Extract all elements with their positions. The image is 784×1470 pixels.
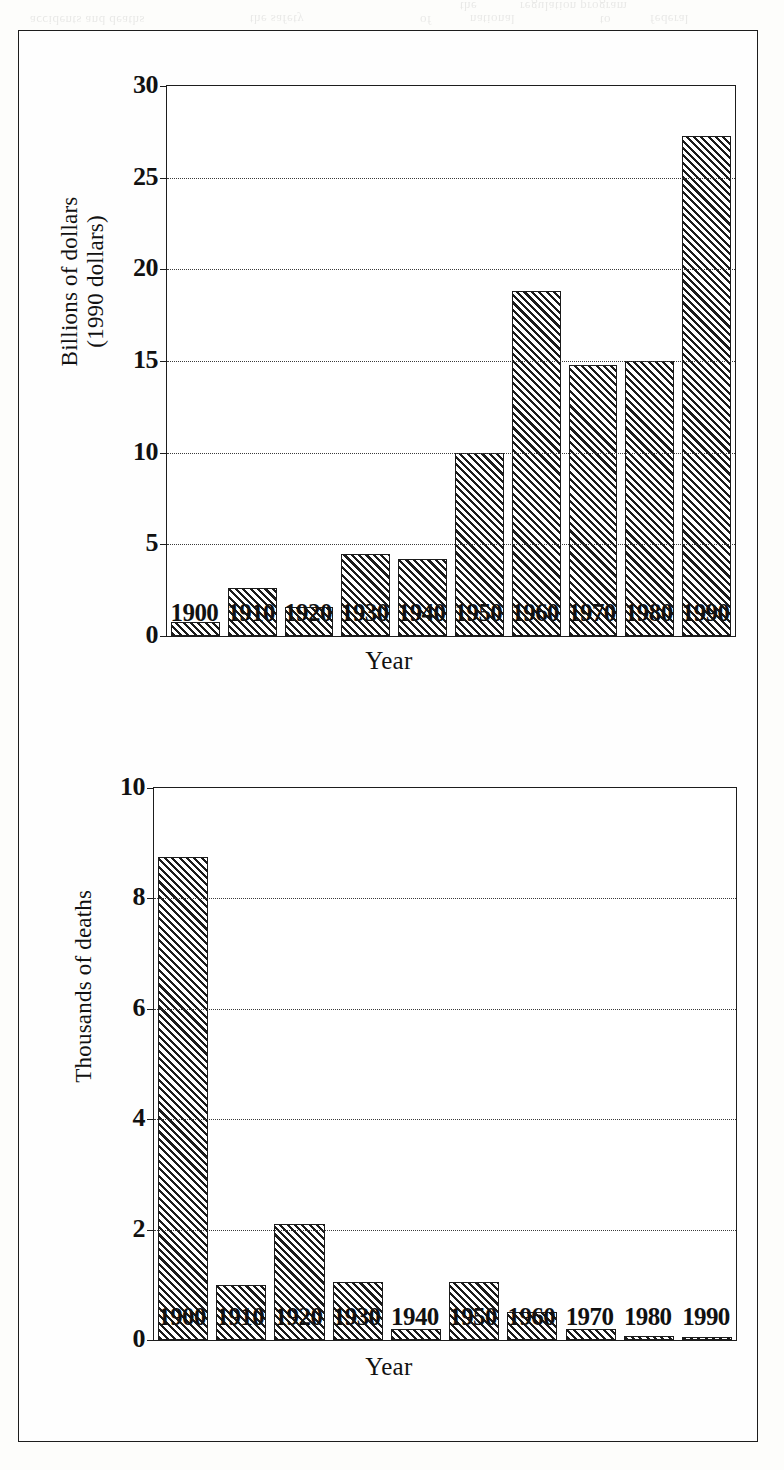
x-tick-label: 1990 (677, 599, 734, 627)
chart1-x-axis-label: Year (19, 647, 759, 675)
chart2-y-axis-label: Thousands of deaths (71, 821, 97, 1151)
y-tick-mark (160, 636, 167, 637)
y-tick-mark (147, 1230, 154, 1231)
x-tick-label: 1960 (507, 599, 564, 627)
x-tick-label: 1930 (328, 1303, 386, 1331)
gridline (154, 1119, 736, 1120)
gridline (154, 1009, 736, 1010)
bar-slot (503, 788, 561, 1340)
x-tick-label: 1920 (269, 1303, 327, 1331)
x-tick-label: 1950 (444, 1303, 502, 1331)
y-tick-mark (160, 361, 167, 362)
bar-slot (678, 788, 736, 1340)
y-tick-mark (160, 453, 167, 454)
bar-slot (620, 788, 678, 1340)
y-tick-label: 5 (146, 529, 159, 559)
y-tick-label: 20 (133, 254, 158, 284)
y-tick-label: 6 (133, 993, 146, 1023)
y-tick-mark (160, 269, 167, 270)
x-tick-label: 1920 (280, 599, 337, 627)
x-tick-label: 1960 (502, 1303, 560, 1331)
y-tick-label: 8 (133, 883, 146, 913)
y-tick-mark (147, 788, 154, 789)
x-tick-label: 1980 (620, 599, 677, 627)
y-tick-label: 30 (133, 70, 158, 100)
bar-slot (561, 788, 619, 1340)
x-tick-label: 1980 (619, 1303, 677, 1331)
bar-1990 (682, 136, 731, 637)
chart1-y-axis-label-line2: (1990 dollars) (83, 215, 108, 347)
x-tick-label: 1900 (166, 599, 223, 627)
gridline (154, 898, 736, 899)
x-tick-label: 1940 (386, 1303, 444, 1331)
chart-billions-of-dollars: Billions of dollars(1990 dollars) 051015… (19, 43, 759, 743)
gridline (167, 453, 735, 454)
bar-1980 (624, 1336, 674, 1340)
gridline (167, 178, 735, 179)
gridline (167, 544, 735, 545)
bar-slot (329, 788, 387, 1340)
y-tick-mark (147, 1119, 154, 1120)
x-tick-label: 1970 (560, 1303, 618, 1331)
y-tick-mark (147, 1009, 154, 1010)
x-tick-label: 1950 (450, 599, 507, 627)
y-tick-label: 4 (133, 1104, 146, 1134)
scanner-bleed-through: accidents and deaths the safety of natio… (0, 0, 784, 30)
chart2-bars (154, 788, 736, 1340)
bar-slot (154, 788, 212, 1340)
chart-thousands-of-deaths: Thousands of deaths 0246810 190019101920… (19, 743, 759, 1439)
gridline (167, 269, 735, 270)
gridline (154, 1230, 736, 1231)
y-tick-mark (147, 1340, 154, 1341)
chart2-x-tick-labels: 1900191019201930194019501960197019801990 (153, 1303, 735, 1331)
chart1-y-axis-label: Billions of dollars(1990 dollars) (57, 131, 110, 431)
y-tick-label: 10 (133, 437, 158, 467)
bar-slot (445, 788, 503, 1340)
x-tick-label: 1990 (677, 1303, 735, 1331)
y-tick-label: 0 (146, 620, 159, 650)
y-tick-mark (160, 86, 167, 87)
chart1-y-axis-label-line1: Billions of dollars (57, 196, 82, 366)
bar-slot (387, 788, 445, 1340)
chart1-plot-area: 051015202530 (166, 85, 736, 637)
chart1-x-tick-labels: 1900191019201930194019501960197019801990 (166, 599, 734, 627)
gridline (167, 361, 735, 362)
x-tick-label: 1900 (153, 1303, 211, 1331)
y-tick-label: 10 (120, 772, 145, 802)
bar-1990 (682, 1337, 732, 1340)
figure-frame: Billions of dollars(1990 dollars) 051015… (18, 30, 758, 1442)
bar-1980 (625, 361, 674, 636)
chart2-plot-area: 0246810 (153, 787, 737, 1341)
bar-slot (270, 788, 328, 1340)
y-tick-label: 15 (133, 345, 158, 375)
chart2-x-axis-label: Year (19, 1353, 759, 1381)
y-tick-mark (160, 178, 167, 179)
y-tick-label: 0 (133, 1324, 146, 1354)
bar-1960 (512, 291, 561, 636)
y-tick-mark (160, 544, 167, 545)
x-tick-label: 1910 (211, 1303, 269, 1331)
x-tick-label: 1910 (223, 599, 280, 627)
bar-slot (212, 788, 270, 1340)
x-tick-label: 1970 (564, 599, 621, 627)
bar-1970 (569, 365, 618, 636)
y-tick-mark (147, 898, 154, 899)
y-tick-label: 2 (133, 1214, 146, 1244)
bar-1900 (158, 857, 208, 1340)
y-tick-label: 25 (133, 162, 158, 192)
x-tick-label: 1930 (336, 599, 393, 627)
x-tick-label: 1940 (393, 599, 450, 627)
